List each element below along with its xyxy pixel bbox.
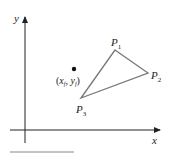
x-axis-label: x	[151, 134, 157, 146]
test-point-dot	[72, 67, 76, 71]
triangle	[81, 50, 148, 98]
diagram-canvas: y x P1 P2 P3 (xf, yf)	[0, 0, 173, 158]
vertex-label-p1: P1	[110, 36, 122, 51]
test-point-label: (xf, yf)	[56, 75, 80, 87]
vertex-label-p3: P3	[75, 103, 87, 118]
y-axis-label: y	[13, 12, 19, 24]
vertex-label-p2: P2	[150, 69, 162, 84]
